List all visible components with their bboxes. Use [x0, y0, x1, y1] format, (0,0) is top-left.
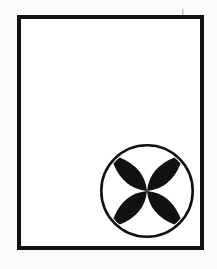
stray-tick-mark	[182, 9, 183, 15]
artwork-svg	[0, 0, 217, 269]
artwork-canvas: Framed quatrefoil rosette A thick black …	[0, 0, 217, 269]
